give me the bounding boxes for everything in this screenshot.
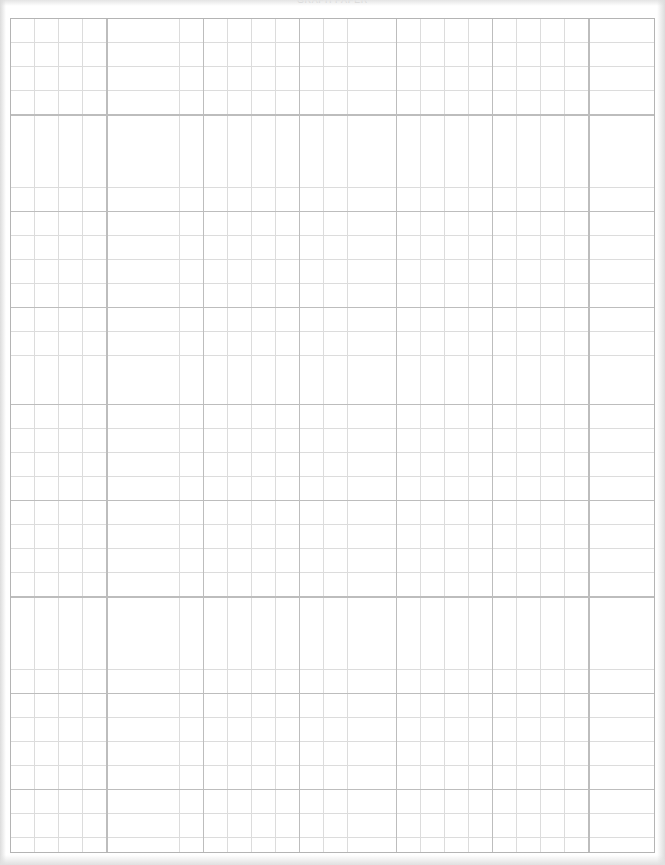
page-edge-bottom-shading: [0, 855, 665, 865]
page-edge-left-shading: [0, 0, 6, 865]
page-edge-right-shading: [657, 0, 665, 865]
page-header-text: GRAPH PAPER: [0, 0, 665, 6]
graph-paper-sheet: GRAPH PAPER: [0, 0, 665, 865]
graph-paper-grid[interactable]: [10, 18, 655, 853]
